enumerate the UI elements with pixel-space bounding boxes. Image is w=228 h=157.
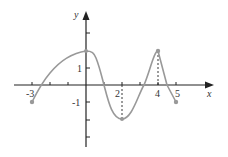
point-min [120,117,124,121]
x-tick-label-neg3: -3 [26,88,34,99]
x-tick-label-4: 4 [155,88,160,99]
x-axis-label: x [206,88,212,99]
y-axis-label: y [73,9,79,20]
x-tick-label-2: 2 [115,88,120,99]
x-tick-label-5: 5 [175,88,180,99]
endpoint-left [30,100,34,104]
point-max-left [84,49,88,53]
y-tick-label-1: 1 [77,63,82,74]
y-axis-arrow-icon [83,11,90,20]
point-peak [156,49,160,53]
function-graph: y x -3 2 4 5 1 -1 [0,0,228,157]
y-tick-label-neg1: -1 [72,97,80,108]
endpoint-right [174,100,178,104]
